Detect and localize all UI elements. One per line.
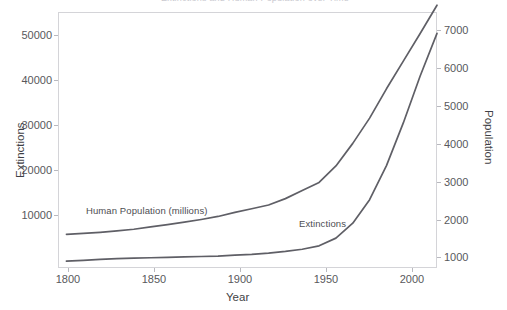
y-left-tickmark <box>54 170 58 171</box>
y-right-tick-2000: 2000 <box>444 215 468 226</box>
y-left-tickmark <box>54 125 58 126</box>
x-tickmark <box>412 268 413 272</box>
y-right-tickmark <box>437 182 441 183</box>
y-right-tickmark <box>437 30 441 31</box>
plot-area <box>58 12 437 268</box>
y-right-tickmark <box>437 144 441 145</box>
chart-title-cropped: Extinctions and Human Population over Ti… <box>85 0 425 3</box>
x-tick-1950: 1950 <box>312 274 340 285</box>
x-tickmark <box>326 268 327 272</box>
y-left-tickmark <box>54 35 58 36</box>
x-tickmark <box>154 268 155 272</box>
x-tick-1800: 1800 <box>54 274 82 285</box>
y-left-tick-10000: 10000 <box>8 210 52 221</box>
y-right-tickmark <box>437 220 441 221</box>
annotation-human-population: Human Population (millions) <box>86 205 208 216</box>
y-left-tickmark <box>54 80 58 81</box>
x-tickmark <box>240 268 241 272</box>
y-right-tick-1000: 1000 <box>444 252 468 263</box>
annotation-extinctions: Extinctions <box>299 218 346 229</box>
x-axis-title: Year <box>226 291 249 303</box>
y-right-tickmark <box>437 68 441 69</box>
y-left-axis-title: Extinctions <box>14 122 26 178</box>
y-right-tick-4000: 4000 <box>444 139 468 150</box>
y-right-tickmark <box>437 257 441 258</box>
x-tickmark <box>68 268 69 272</box>
x-tick-1850: 1850 <box>140 274 168 285</box>
y-right-tickmark <box>437 106 441 107</box>
y-right-tick-3000: 3000 <box>444 177 468 188</box>
y-left-tick-50000: 50000 <box>8 30 52 41</box>
x-tick-2000: 2000 <box>398 274 426 285</box>
x-tick-1900: 1900 <box>226 274 254 285</box>
y-left-tickmark <box>54 215 58 216</box>
y-right-axis-title: Population <box>483 110 495 164</box>
chart-figure: Extinctions and Human Population over Ti… <box>0 0 507 310</box>
y-right-tick-6000: 6000 <box>444 63 468 74</box>
y-left-tick-40000: 40000 <box>8 75 52 86</box>
y-right-tick-5000: 5000 <box>444 101 468 112</box>
y-right-tick-7000: 7000 <box>444 25 468 36</box>
